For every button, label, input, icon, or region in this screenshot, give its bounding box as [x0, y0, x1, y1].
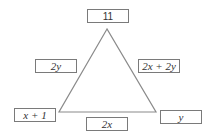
bottom-side-label-box: 2x [86, 117, 128, 131]
bottom-right-vertex-label-box: y [160, 110, 202, 124]
bottom-side-label: 2x [102, 118, 112, 130]
bottom-left-vertex-label-box: x + 1 [14, 108, 56, 122]
right-side-label-box: 2x + 2y [138, 59, 180, 73]
left-side-label: 2y [51, 60, 61, 72]
top-vertex-label: 11 [103, 11, 113, 22]
left-side-label-box: 2y [35, 59, 77, 73]
bottom-left-vertex-label: x + 1 [23, 109, 46, 121]
top-vertex-label-box: 11 [87, 9, 129, 23]
bottom-right-vertex-label: y [179, 111, 184, 123]
right-side-label: 2x + 2y [142, 60, 176, 72]
